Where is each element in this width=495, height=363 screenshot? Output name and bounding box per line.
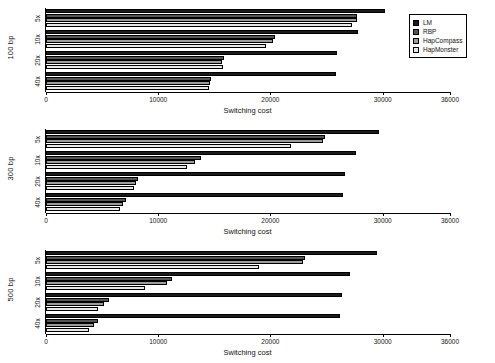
panel-group-label: 300 bp	[2, 121, 18, 216]
x-tick-mark	[158, 92, 159, 95]
bar-hc	[46, 160, 195, 164]
y-tick-text: 20x	[33, 55, 40, 65]
chart-panel: 100 bp5x10x20x40x010000200003000036000Sw…	[0, 0, 495, 121]
bar-hc	[46, 60, 222, 64]
x-tick-mark	[450, 92, 451, 95]
coverage-group	[46, 192, 450, 213]
x-tick-label: 20000	[261, 96, 279, 103]
coverage-group	[46, 50, 450, 71]
legend-swatch-icon	[413, 29, 419, 35]
coverage-group	[46, 29, 450, 50]
bar-lm	[46, 30, 358, 34]
x-tick-label: 20000	[261, 217, 279, 224]
x-axis-line	[46, 334, 450, 335]
bar-hm	[46, 23, 352, 27]
bar-lm	[46, 251, 377, 255]
x-axis-line	[46, 92, 450, 93]
panel-group-label-text: 100 bp	[6, 35, 15, 59]
bar-rbp	[46, 156, 201, 160]
bar-hm	[46, 186, 134, 190]
legend-swatch-icon	[413, 38, 419, 44]
bar-hc	[46, 18, 357, 22]
legend-item-label: LM	[423, 19, 432, 26]
x-tick-mark	[158, 334, 159, 337]
panel-group-label-text: 300 bp	[6, 156, 15, 180]
x-tick-mark	[383, 213, 384, 216]
legend-item[interactable]: HapMonster	[413, 45, 462, 54]
y-tick-label: 20x	[30, 171, 44, 192]
x-axis-line	[46, 213, 450, 214]
bar-hm	[46, 328, 89, 332]
bar-rbp	[46, 319, 98, 323]
x-tick-mark	[46, 213, 47, 216]
x-tick-label: 0	[44, 96, 48, 103]
x-tick-mark	[158, 213, 159, 216]
legend: LMRBPHapCompassHapMonster	[409, 14, 467, 58]
y-tick-label: 10x	[30, 271, 44, 292]
coverage-group	[46, 313, 450, 334]
panel-group-label: 500 bp	[2, 242, 18, 337]
bar-lm	[46, 172, 345, 176]
legend-item-label: RBP	[423, 28, 436, 35]
x-axis-title: Switching cost	[0, 106, 495, 115]
x-tick-label: 30000	[374, 338, 392, 345]
x-tick-label: 0	[44, 338, 48, 345]
bar-rbp	[46, 277, 172, 281]
bar-rbp	[46, 298, 109, 302]
y-tick-label: 5x	[30, 129, 44, 150]
bar-hc	[46, 260, 303, 264]
coverage-group	[46, 71, 450, 92]
bar-lm	[46, 272, 350, 276]
switching-cost-figure: 100 bp5x10x20x40x010000200003000036000Sw…	[0, 0, 495, 363]
y-tick-text: 5x	[34, 15, 41, 22]
coverage-group	[46, 250, 450, 271]
y-tick-text: 10x	[33, 276, 40, 286]
y-tick-text: 40x	[33, 197, 40, 207]
panel-group-label: 100 bp	[2, 0, 18, 95]
bar-hm	[46, 144, 291, 148]
bar-hm	[46, 286, 145, 290]
bar-rbp	[46, 77, 211, 81]
bar-hc	[46, 281, 167, 285]
bar-hm	[46, 86, 209, 90]
bar-rbp	[46, 135, 325, 139]
bar-lm	[46, 151, 356, 155]
x-tick-mark	[383, 334, 384, 337]
bar-rbp	[46, 256, 305, 260]
x-tick-label: 10000	[149, 338, 167, 345]
x-axis-title: Switching cost	[0, 227, 495, 236]
x-tick-mark	[46, 92, 47, 95]
bar-rbp	[46, 56, 224, 60]
coverage-group	[46, 292, 450, 313]
x-tick-mark	[270, 213, 271, 216]
chart-panel: 300 bp5x10x20x40x010000200003000036000Sw…	[0, 121, 495, 242]
coverage-group	[46, 8, 450, 29]
x-tick-mark	[270, 92, 271, 95]
bar-hm	[46, 207, 120, 211]
bar-lm	[46, 293, 342, 297]
bar-hc	[46, 139, 323, 143]
x-tick-mark	[450, 213, 451, 216]
bar-hm	[46, 65, 223, 69]
bar-lm	[46, 51, 337, 55]
legend-item[interactable]: LM	[413, 18, 462, 27]
legend-swatch-icon	[413, 20, 419, 26]
y-tick-label: 10x	[30, 150, 44, 171]
x-tick-label: 36000	[441, 338, 459, 345]
bar-rbp	[46, 35, 275, 39]
bar-hm	[46, 165, 187, 169]
bar-hc	[46, 181, 136, 185]
bar-lm	[46, 193, 343, 197]
x-tick-mark	[383, 92, 384, 95]
bar-hm	[46, 307, 98, 311]
bar-hc	[46, 323, 94, 327]
y-tick-label: 20x	[30, 292, 44, 313]
legend-item[interactable]: HapCompass	[413, 36, 462, 45]
y-tick-text: 40x	[33, 76, 40, 86]
bar-hm	[46, 44, 266, 48]
legend-item-label: HapCompass	[423, 37, 462, 44]
legend-item[interactable]: RBP	[413, 27, 462, 36]
bar-rbp	[46, 14, 357, 18]
y-tick-text: 20x	[33, 297, 40, 307]
coverage-group	[46, 129, 450, 150]
